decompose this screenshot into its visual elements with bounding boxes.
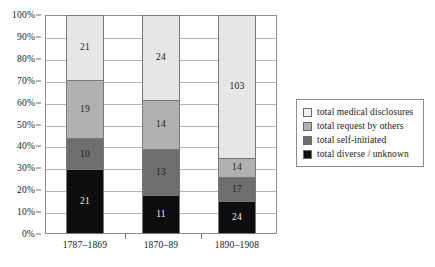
legend-item-label: total diverse / unknown [317, 149, 409, 159]
legend-item[interactable]: total medical disclosures [303, 105, 417, 119]
y-axis-tick-label: 20% [17, 185, 35, 195]
bar-segment-value-label: 24 [232, 213, 242, 223]
bar-segment[interactable]: 14 [142, 100, 180, 149]
y-axis-tick-label: 100% [12, 10, 35, 20]
bar-segment-value-label: 13 [156, 168, 166, 178]
legend: total medical disclosurestotal request b… [296, 99, 424, 167]
y-axis-tick-mark [36, 80, 41, 81]
legend-item-label: total medical disclosures [317, 107, 413, 117]
bar-segment-value-label: 14 [156, 120, 166, 130]
bar-column[interactable]: 24141311 [142, 15, 180, 234]
legend-color-swatch [303, 108, 312, 117]
y-axis-tick-label: 30% [17, 163, 35, 173]
bar-segment[interactable]: 17 [218, 177, 256, 201]
legend-item[interactable]: total self-initiated [303, 133, 417, 147]
bars-layer: 2119102124141311103141724 [45, 15, 277, 234]
y-axis-tick-label: 80% [17, 54, 35, 64]
bar-segment-value-label: 103 [230, 82, 245, 92]
bar-segment[interactable]: 24 [218, 201, 256, 234]
legend-item-label: total request by others [317, 121, 403, 131]
bar-column[interactable]: 103141724 [218, 15, 256, 234]
legend-item[interactable]: total diverse / unknown [303, 147, 417, 161]
bar-segment-value-label: 19 [80, 105, 90, 115]
x-axis-tick-label: 1890–1908 [215, 240, 260, 250]
y-axis-tick-mark [36, 234, 41, 235]
bar-segment[interactable]: 103 [218, 15, 256, 158]
legend-color-swatch [303, 150, 312, 159]
legend-item[interactable]: total request by others [303, 119, 417, 133]
stacked-bar-chart: 100%90%80%70%60%50%40%30%20%10%0% 211910… [0, 0, 435, 267]
y-axis-tick-label: 90% [17, 32, 35, 42]
bar-segment[interactable]: 14 [218, 158, 256, 177]
bar-segment-value-label: 10 [80, 150, 90, 160]
y-axis-tick-mark [36, 36, 41, 37]
bar-segment[interactable]: 24 [142, 15, 180, 100]
bar-segment[interactable]: 21 [66, 169, 104, 234]
y-axis-tick-mark [36, 15, 41, 16]
bar-segment-value-label: 24 [156, 53, 166, 63]
y-axis-tick-label: 40% [17, 141, 35, 151]
y-axis-tick-label: 50% [17, 120, 35, 130]
bar-segment[interactable]: 13 [142, 149, 180, 195]
x-axis: 1787–18691870–891890–1908 [45, 240, 277, 258]
y-axis-tick-mark [36, 190, 41, 191]
y-axis-tick-label: 0% [22, 229, 35, 239]
bar-segment[interactable]: 19 [66, 80, 104, 139]
y-axis-tick-label: 10% [17, 207, 35, 217]
x-axis-tick-mark [125, 234, 126, 239]
bar-column[interactable]: 21191021 [66, 15, 104, 234]
x-axis-tick-mark [201, 234, 202, 239]
y-axis-tick-mark [36, 146, 41, 147]
x-axis-tick-label: 1787–1869 [63, 240, 108, 250]
y-axis: 100%90%80%70%60%50%40%30%20%10%0% [0, 15, 41, 234]
y-axis-tick-mark [36, 168, 41, 169]
bar-segment-value-label: 17 [232, 185, 242, 195]
bar-segment[interactable]: 10 [66, 138, 104, 169]
y-axis-tick-mark [36, 102, 41, 103]
x-axis-tick-label: 1870–89 [144, 240, 179, 250]
legend-color-swatch [303, 122, 312, 131]
bar-segment-value-label: 21 [80, 43, 90, 53]
bar-segment-value-label: 11 [156, 210, 166, 220]
bar-segment-value-label: 14 [232, 163, 242, 173]
legend-item-label: total self-initiated [317, 135, 386, 145]
y-axis-tick-label: 70% [17, 76, 35, 86]
y-axis-tick-label: 60% [17, 98, 35, 108]
y-axis-tick-mark [36, 124, 41, 125]
y-axis-tick-mark [36, 58, 41, 59]
bar-segment-value-label: 21 [80, 197, 90, 207]
legend-color-swatch [303, 136, 312, 145]
y-axis-tick-mark [36, 212, 41, 213]
bar-segment[interactable]: 21 [66, 15, 104, 80]
bar-segment[interactable]: 11 [142, 195, 180, 234]
